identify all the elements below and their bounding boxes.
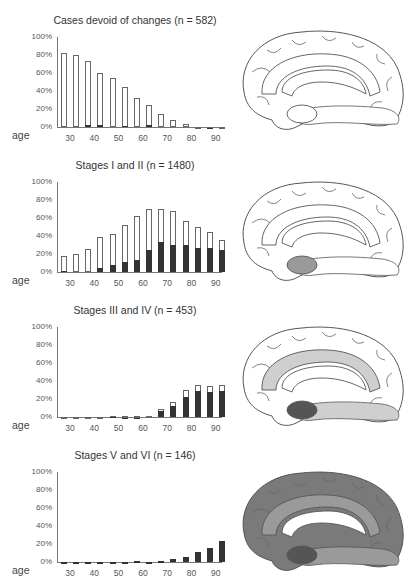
bar — [219, 385, 225, 417]
y-tick-label: 60% — [22, 68, 52, 77]
bar — [85, 562, 91, 564]
bar-dark-segment — [207, 248, 213, 272]
y-tick-label: 60% — [22, 358, 52, 367]
x-tick-label: 70 — [157, 278, 177, 288]
bar-dark-segment — [122, 262, 128, 272]
bar — [134, 561, 140, 563]
x-tick-label: 90 — [206, 423, 226, 433]
y-axis — [57, 472, 58, 562]
bar — [219, 127, 225, 129]
x-tick-label: 70 — [157, 133, 177, 143]
bar-dark-segment — [219, 250, 225, 272]
y-tick-label: 40% — [22, 521, 52, 530]
y-tick-label: 20% — [22, 394, 52, 403]
y-tick-label: 40% — [22, 231, 52, 240]
bar — [73, 254, 79, 272]
bar — [146, 209, 152, 272]
bar-dark-segment — [195, 248, 201, 272]
bar — [146, 562, 152, 564]
bar — [170, 559, 176, 562]
chart-title: Cases devoid of changes (n = 582) — [40, 14, 230, 26]
y-tick-label: 20% — [22, 104, 52, 113]
bar-dark-segment — [170, 245, 176, 272]
bar — [158, 561, 164, 563]
bar — [158, 114, 164, 127]
x-tick-label: 30 — [60, 133, 80, 143]
y-tick-label: 60% — [22, 213, 52, 222]
bar-dark-segment — [110, 417, 116, 418]
bar — [195, 227, 201, 272]
x-tick-label: 50 — [109, 568, 129, 578]
bar — [195, 385, 201, 417]
bar — [207, 548, 213, 562]
chart-panel: Stages I and II (n = 1480)100%80%60%40%2… — [0, 145, 225, 290]
brain-illustration — [232, 173, 412, 293]
bar — [85, 417, 91, 419]
bar — [110, 234, 116, 272]
brain-illustration — [232, 22, 412, 142]
bar-dark-segment — [195, 391, 201, 417]
y-tick-label: 40% — [22, 376, 52, 385]
y-tick-label: 100% — [22, 467, 52, 476]
bar — [183, 124, 189, 127]
bar-dark-segment — [219, 391, 225, 417]
bar — [97, 237, 103, 272]
x-tick-label: 80 — [182, 133, 202, 143]
bar — [97, 73, 103, 127]
bar-dark-segment — [134, 260, 140, 272]
bar — [134, 416, 140, 418]
entorhinal-region — [287, 546, 317, 564]
brain-illustration — [232, 463, 412, 583]
x-tick-label: 80 — [182, 568, 202, 578]
x-tick-label: 60 — [133, 423, 153, 433]
y-tick-label: 80% — [22, 195, 52, 204]
bar — [85, 249, 91, 272]
bar — [97, 562, 103, 564]
bar — [122, 225, 128, 272]
bar-dark-segment — [207, 392, 213, 417]
bar — [158, 409, 164, 417]
bar — [73, 417, 79, 419]
x-tick-label: 50 — [109, 133, 129, 143]
brain-illustration — [232, 318, 412, 438]
y-tick-label: 100% — [22, 177, 52, 186]
bar — [219, 240, 225, 272]
y-tick-label: 100% — [22, 322, 52, 331]
bar — [146, 416, 152, 418]
y-axis — [57, 37, 58, 127]
y-tick-label: 20% — [22, 249, 52, 258]
y-axis — [57, 327, 58, 417]
x-tick-label: 40 — [84, 568, 104, 578]
x-tick-label: 80 — [182, 423, 202, 433]
y-tick-label: 100% — [22, 32, 52, 41]
bar — [122, 562, 128, 564]
bar — [110, 562, 116, 564]
bar — [73, 55, 79, 127]
x-tick-label: 90 — [206, 133, 226, 143]
x-tick-label: 30 — [60, 423, 80, 433]
x-tick-label: 90 — [206, 568, 226, 578]
bar — [170, 120, 176, 127]
y-tick-label: 80% — [22, 50, 52, 59]
x-axis — [57, 272, 222, 273]
bar — [85, 61, 91, 127]
bar-dark-segment — [97, 125, 103, 127]
bar — [207, 232, 213, 272]
x-tick-label: 30 — [60, 568, 80, 578]
x-tick-label: 80 — [182, 278, 202, 288]
x-tick-label: 60 — [133, 568, 153, 578]
entorhinal-region — [287, 256, 317, 274]
chart-title: Stages I and II (n = 1480) — [40, 159, 230, 171]
bar — [134, 216, 140, 272]
bar — [195, 552, 201, 562]
bar — [134, 98, 140, 127]
bar — [207, 127, 213, 129]
bar-dark-segment — [85, 125, 91, 127]
x-tick-label: 50 — [109, 423, 129, 433]
x-tick-label: 40 — [84, 423, 104, 433]
age-axis-label: age — [12, 564, 30, 576]
x-tick-label: 60 — [133, 278, 153, 288]
entorhinal-region — [287, 401, 317, 419]
entorhinal-region — [287, 105, 317, 123]
x-tick-label: 40 — [84, 278, 104, 288]
